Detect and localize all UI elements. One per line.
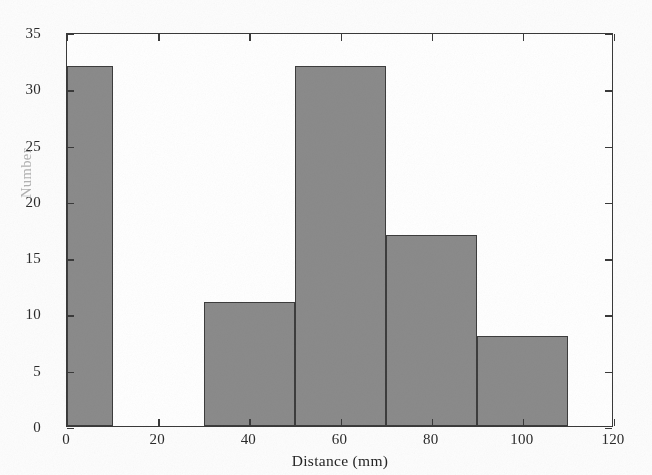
x-axis-label-text: Distance (mm): [292, 452, 388, 469]
x-tick-mark: [158, 419, 159, 426]
y-axis-label: Number: [18, 148, 35, 198]
y-tick-label: 10: [26, 306, 41, 323]
x-tick-mark: [432, 419, 433, 426]
x-axis-label: Distance (mm): [0, 452, 652, 470]
y-tick-mark-right: [605, 372, 612, 373]
y-tick-mark-right: [605, 428, 612, 429]
y-tick-mark-right: [605, 315, 612, 316]
x-tick-mark-top: [523, 34, 524, 41]
y-tick-mark-right: [605, 34, 612, 35]
histogram-bar: [295, 66, 386, 426]
x-tick-mark-top: [614, 34, 615, 41]
x-tick-label: 0: [62, 431, 70, 448]
plot-area: [66, 33, 613, 427]
y-tick-mark: [67, 372, 74, 373]
y-tick-mark: [67, 259, 74, 260]
y-tick-label: 0: [33, 419, 41, 436]
y-tick-mark: [67, 315, 74, 316]
x-tick-mark-top: [249, 34, 250, 41]
x-tick-mark-top: [341, 34, 342, 41]
x-tick-mark: [614, 419, 615, 426]
y-tick-mark-right: [605, 203, 612, 204]
x-tick-mark-top: [432, 34, 433, 41]
x-tick-label: 120: [601, 431, 624, 448]
x-tick-label: 80: [423, 431, 438, 448]
y-tick-mark-right: [605, 259, 612, 260]
y-tick-mark: [67, 34, 74, 35]
x-tick-mark: [67, 419, 68, 426]
x-tick-mark: [341, 419, 342, 426]
x-tick-label: 40: [241, 431, 256, 448]
x-tick-label: 60: [332, 431, 347, 448]
y-tick-mark-right: [605, 90, 612, 91]
bars-layer: [67, 34, 612, 426]
y-tick-label: 35: [26, 25, 41, 42]
x-tick-label: 100: [510, 431, 533, 448]
y-tick-label: 15: [26, 250, 41, 267]
y-tick-mark: [67, 90, 74, 91]
x-tick-mark: [249, 419, 250, 426]
histogram-bar: [477, 336, 568, 426]
x-tick-label: 20: [149, 431, 164, 448]
y-tick-mark: [67, 203, 74, 204]
y-tick-label: 30: [26, 81, 41, 98]
x-tick-mark: [523, 419, 524, 426]
histogram-bar: [204, 302, 295, 426]
histogram-figure: 020406080100120 05101520253035 Distance …: [0, 0, 652, 475]
y-tick-mark: [67, 147, 74, 148]
histogram-bar: [386, 235, 477, 426]
y-tick-mark: [67, 428, 74, 429]
y-tick-mark-right: [605, 147, 612, 148]
x-tick-mark-top: [158, 34, 159, 41]
y-tick-label: 5: [33, 362, 41, 379]
